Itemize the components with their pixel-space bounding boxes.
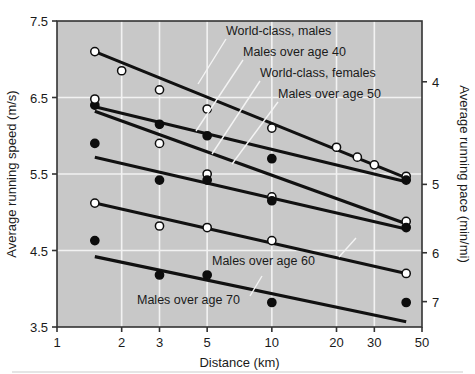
data-point-filled bbox=[268, 155, 276, 163]
x-tick-label: 50 bbox=[415, 335, 429, 350]
data-point-open bbox=[353, 153, 361, 161]
data-point-filled bbox=[155, 271, 163, 279]
y2-axis-label: Average running pace (min/mi) bbox=[457, 85, 472, 263]
data-point-filled bbox=[268, 197, 276, 205]
y2-tick-label: 6 bbox=[432, 246, 439, 261]
running-speed-chart: 1235102030503.54.55.56.57.54567Distance … bbox=[0, 0, 475, 374]
data-point-filled bbox=[155, 176, 163, 184]
data-point-filled bbox=[91, 236, 99, 244]
data-point-open bbox=[118, 67, 126, 75]
series-annotation-label: Males over age 70 bbox=[137, 293, 240, 307]
data-point-open bbox=[155, 222, 163, 230]
data-point-open bbox=[332, 143, 340, 151]
x-tick-label: 5 bbox=[204, 335, 211, 350]
data-point-open bbox=[370, 161, 378, 169]
series-annotation-label: Males over age 40 bbox=[243, 45, 346, 59]
y-axis-label: Average running speed (m/s) bbox=[4, 90, 19, 257]
y2-tick-label: 7 bbox=[432, 295, 439, 310]
y-tick-label: 3.5 bbox=[30, 320, 48, 335]
series-annotation-label: World-class, males bbox=[226, 24, 331, 38]
x-tick-label: 2 bbox=[118, 335, 125, 350]
data-point-open bbox=[155, 139, 163, 147]
data-point-open bbox=[155, 86, 163, 94]
x-tick-label: 10 bbox=[265, 335, 279, 350]
data-point-filled bbox=[402, 223, 410, 231]
y2-tick-label: 4 bbox=[432, 75, 439, 90]
x-tick-label: 20 bbox=[329, 335, 343, 350]
x-axis-label: Distance (km) bbox=[199, 355, 279, 370]
data-point-open bbox=[402, 269, 410, 277]
data-point-filled bbox=[203, 176, 211, 184]
y-tick-label: 4.5 bbox=[30, 244, 48, 259]
data-point-open bbox=[91, 199, 99, 207]
y-tick-label: 6.5 bbox=[30, 91, 48, 106]
data-point-filled bbox=[402, 298, 410, 306]
x-tick-label: 3 bbox=[156, 335, 163, 350]
data-point-open bbox=[268, 236, 276, 244]
data-point-filled bbox=[268, 298, 276, 306]
data-point-filled bbox=[203, 132, 211, 140]
y-tick-label: 7.5 bbox=[30, 14, 48, 29]
y2-tick-label: 5 bbox=[432, 177, 439, 192]
y-tick-label: 5.5 bbox=[30, 167, 48, 182]
data-point-open bbox=[91, 95, 99, 103]
data-point-open bbox=[203, 223, 211, 231]
data-point-filled bbox=[155, 120, 163, 128]
data-point-open bbox=[91, 48, 99, 56]
x-tick-label: 30 bbox=[367, 335, 381, 350]
series-annotation-label: World-class, females bbox=[260, 66, 376, 80]
series-annotation-label: Males over age 60 bbox=[212, 254, 315, 268]
data-point-open bbox=[268, 124, 276, 132]
data-point-filled bbox=[91, 139, 99, 147]
x-tick-label: 1 bbox=[53, 335, 60, 350]
chart-svg: 1235102030503.54.55.56.57.54567Distance … bbox=[0, 0, 475, 374]
data-point-filled bbox=[203, 271, 211, 279]
series-annotation-label: Males over age 50 bbox=[278, 87, 381, 101]
data-point-filled bbox=[402, 176, 410, 184]
